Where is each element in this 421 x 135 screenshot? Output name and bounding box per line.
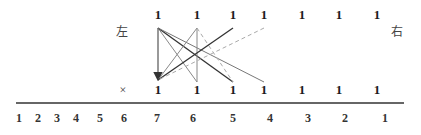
top-number: 1: [230, 8, 237, 22]
bottom-number: 1: [155, 83, 162, 97]
top-number: 1: [261, 8, 268, 22]
right-label: 右: [391, 25, 403, 39]
bottom-number: 1: [336, 83, 343, 97]
axis-number: 7: [154, 111, 160, 125]
axis-number: 2: [342, 111, 348, 125]
axis-number: 4: [73, 111, 79, 125]
bottom-number: 1: [299, 83, 306, 97]
bottom-number: 1: [261, 83, 268, 97]
bottom-number: 1: [230, 83, 237, 97]
top-number: 1: [336, 8, 343, 22]
top-number: 1: [155, 8, 162, 22]
axis-number: 6: [121, 111, 127, 125]
axis-number: 1: [382, 111, 388, 125]
top-number: 1: [194, 8, 201, 22]
bottom-number: 1: [194, 83, 201, 97]
axis-number: 2: [35, 111, 41, 125]
left-label: 左: [116, 25, 128, 39]
bottom-number: 1: [374, 83, 381, 97]
axis-number: 3: [305, 111, 311, 125]
connection-lines: [0, 0, 421, 135]
top-number: 1: [299, 8, 306, 22]
axis-number: 5: [97, 111, 103, 125]
cross-label: ×: [120, 83, 127, 97]
axis-number: 4: [267, 111, 273, 125]
axis-number: 1: [16, 111, 22, 125]
top-number: 1: [374, 8, 381, 22]
axis-number: 3: [54, 111, 60, 125]
axis-number: 6: [190, 111, 196, 125]
axis-number: 5: [230, 111, 236, 125]
